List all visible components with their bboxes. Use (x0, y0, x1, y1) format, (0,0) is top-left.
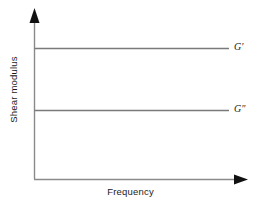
series-label-g-prime: G′ (234, 41, 243, 52)
y-axis-arrowhead (30, 8, 40, 23)
plot-area (0, 0, 261, 211)
y-axis-label: Shear modulus (8, 56, 19, 123)
x-axis-arrowhead (234, 175, 248, 185)
shear-modulus-frequency-chart: Shear modulus Frequency G′ G″ (0, 0, 261, 211)
x-axis-label: Frequency (0, 186, 261, 197)
y-axis-label-container: Shear modulus (0, 0, 26, 179)
series-label-g-double-prime: G″ (234, 103, 245, 114)
